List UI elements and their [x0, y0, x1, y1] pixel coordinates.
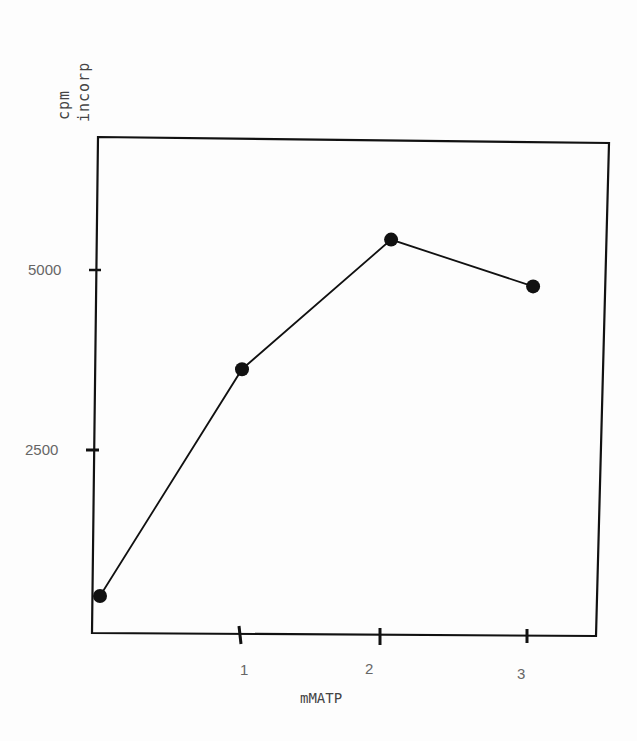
- x-tick-label-2: 2: [365, 660, 373, 677]
- data-series: [93, 233, 540, 603]
- data-point-marker: [93, 589, 107, 603]
- data-point-marker: [235, 362, 249, 376]
- plot-frame: [92, 137, 609, 636]
- data-point-marker: [526, 279, 540, 293]
- y-tick-label-5000: 5000: [28, 261, 61, 278]
- y-tick-label-2500: 2500: [25, 441, 58, 458]
- x-tick-1: [239, 626, 241, 644]
- series-line: [100, 240, 533, 596]
- x-tick-label-1: 1: [240, 661, 248, 678]
- x-axis-label: mMATP: [300, 690, 342, 706]
- data-point-marker: [384, 233, 398, 247]
- x-tick-label-3: 3: [517, 665, 525, 682]
- line-chart: [0, 0, 637, 741]
